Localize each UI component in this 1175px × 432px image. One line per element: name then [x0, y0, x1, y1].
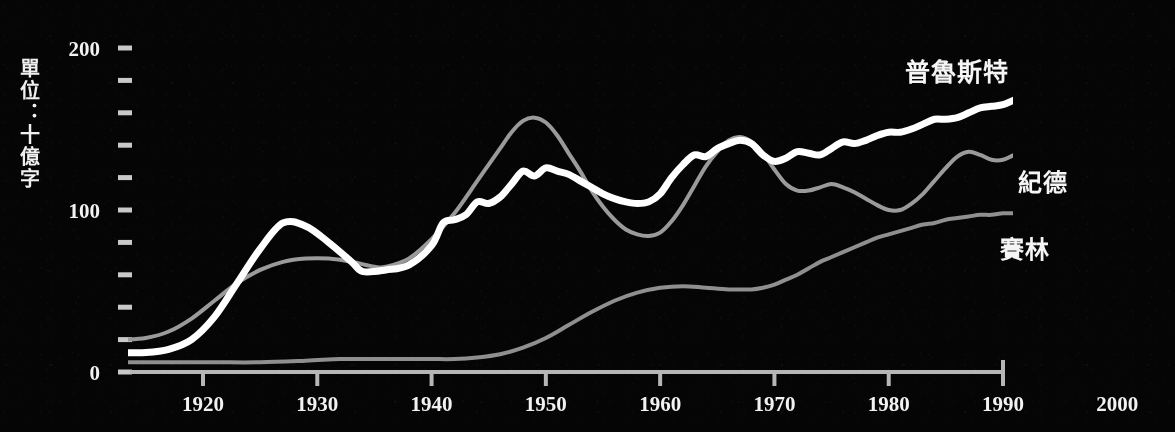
- x-axis-label-1990: 1990: [982, 392, 1024, 416]
- series-label-proust: 普魯斯特: [905, 52, 1009, 88]
- x-axis-label-1920: 1920: [182, 392, 224, 416]
- x-axis-label-1960: 1960: [639, 392, 681, 416]
- y-axis-tick-marks: [118, 48, 132, 372]
- y-axis-label-100: 100: [69, 199, 101, 223]
- y-axis-label-200: 200: [69, 37, 101, 61]
- series-line-proust: [123, 97, 1026, 353]
- x-axis-tick-marks: [203, 372, 1003, 386]
- x-axis-label-1930: 1930: [296, 392, 338, 416]
- series-line-celine: [123, 212, 1026, 363]
- series-label-celine: 賽林: [1000, 230, 1050, 265]
- x-axis-label-1970: 1970: [753, 392, 795, 416]
- x-axis-label-2000: 2000: [1096, 392, 1138, 416]
- series-line-gide: [123, 118, 1026, 340]
- y-axis-label-0: 0: [90, 361, 101, 385]
- y-axis-labels: 0100200: [69, 37, 101, 385]
- x-axis-label-1950: 1950: [525, 392, 567, 416]
- data-series-layer: [123, 97, 1026, 363]
- y-axis-unit-label: 單位：十億字: [8, 58, 38, 190]
- series-label-gide: 紀德: [1018, 163, 1068, 198]
- x-axis-label-1980: 1980: [868, 392, 910, 416]
- x-axis-label-1940: 1940: [411, 392, 453, 416]
- x-axis-labels: 192019301940195019601970198019902000: [182, 392, 1138, 416]
